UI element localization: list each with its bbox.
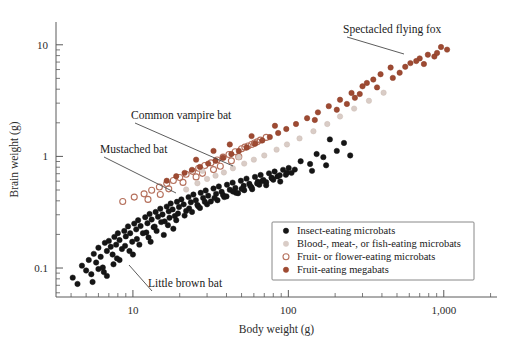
data-point	[108, 244, 113, 249]
data-point	[117, 237, 122, 242]
data-point	[378, 72, 383, 77]
data-point	[171, 226, 176, 231]
data-point	[96, 266, 101, 271]
y-tick-label: 0.1	[34, 262, 48, 274]
data-point	[284, 126, 289, 131]
data-point	[205, 161, 210, 166]
data-point	[364, 80, 369, 85]
annotation-leader	[104, 157, 176, 193]
data-point	[115, 231, 120, 236]
data-point	[230, 166, 235, 171]
data-point	[403, 64, 408, 69]
data-point	[307, 161, 312, 166]
data-point	[213, 173, 218, 178]
data-point	[277, 173, 282, 178]
data-point	[357, 91, 362, 96]
data-point	[197, 164, 202, 169]
data-point	[168, 201, 173, 206]
data-point	[366, 98, 371, 103]
data-point	[216, 184, 221, 189]
data-point	[147, 211, 152, 216]
data-point	[113, 242, 118, 247]
data-point	[278, 179, 283, 184]
data-point	[89, 272, 94, 277]
data-point	[183, 187, 188, 192]
data-point	[254, 181, 259, 186]
y-tick-label: 1	[43, 150, 49, 162]
data-point	[352, 95, 357, 100]
data-point	[414, 58, 419, 63]
data-point	[166, 186, 172, 192]
data-point	[86, 257, 91, 262]
data-point	[315, 110, 320, 115]
data-point	[104, 248, 109, 253]
data-point	[217, 163, 223, 169]
data-point	[160, 212, 165, 217]
data-point	[120, 198, 126, 204]
data-point	[193, 157, 198, 162]
data-point	[79, 263, 84, 268]
data-point	[181, 202, 186, 207]
data-point	[297, 136, 302, 141]
data-point	[174, 218, 179, 223]
data-point	[134, 236, 139, 241]
data-point	[110, 252, 115, 257]
x-axis-title: Body weight (g)	[239, 323, 315, 336]
data-point	[75, 281, 80, 286]
data-point	[309, 168, 314, 173]
data-point	[191, 192, 196, 197]
legend-marker-2	[283, 241, 288, 246]
data-point	[408, 60, 413, 65]
data-point	[267, 134, 272, 139]
legend-label-1: Insect-eating microbats	[297, 225, 395, 236]
data-point	[323, 163, 328, 168]
data-point	[274, 147, 279, 152]
data-point	[149, 217, 154, 222]
data-point	[104, 273, 109, 278]
data-point	[292, 167, 297, 172]
data-point	[298, 159, 303, 164]
data-point	[202, 199, 207, 204]
data-point	[96, 245, 101, 250]
data-point	[242, 161, 247, 166]
data-point	[186, 206, 191, 211]
data-point	[204, 176, 209, 181]
annotation-leader	[347, 37, 404, 54]
data-point	[83, 268, 88, 273]
data-point	[193, 174, 199, 180]
data-point	[90, 279, 95, 284]
data-point	[228, 158, 234, 164]
data-point	[381, 90, 386, 95]
data-point	[252, 174, 257, 179]
data-point	[148, 239, 153, 244]
data-point	[167, 215, 172, 220]
data-point	[122, 243, 127, 248]
data-point	[175, 211, 180, 216]
data-point	[304, 115, 309, 120]
data-point	[149, 187, 155, 193]
legend-label-3: Fruit- or flower-eating microbats	[297, 251, 435, 262]
data-point	[230, 189, 235, 194]
data-point	[205, 193, 210, 198]
data-point	[444, 47, 449, 52]
data-point	[397, 70, 402, 75]
data-point	[186, 194, 191, 199]
data-point	[188, 200, 193, 205]
data-point	[221, 170, 226, 175]
data-point	[203, 188, 208, 193]
data-point	[238, 178, 243, 183]
data-point	[251, 157, 256, 162]
data-point	[321, 154, 326, 159]
data-point	[249, 133, 254, 138]
data-point	[70, 275, 75, 280]
data-point	[371, 77, 376, 82]
data-point	[334, 148, 339, 153]
data-point	[312, 117, 317, 122]
legend-label-4: Fruit-eating megabats	[297, 264, 389, 275]
data-point	[293, 121, 298, 126]
data-point	[311, 129, 316, 134]
data-point	[164, 178, 169, 183]
data-point	[211, 148, 216, 153]
data-point	[152, 224, 157, 229]
data-point	[341, 140, 346, 145]
